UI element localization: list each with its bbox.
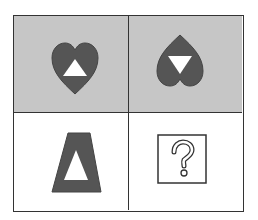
cell-top-right	[129, 16, 242, 113]
inverted-heart-with-triangle-icon	[129, 16, 242, 113]
cell-bottom-left	[14, 113, 129, 210]
heart-with-triangle-icon	[14, 16, 129, 113]
cell-bottom-right	[129, 113, 242, 210]
question-mark-icon	[129, 113, 242, 210]
puzzle-grid	[13, 15, 244, 212]
trapezoid-with-triangle-icon	[14, 113, 129, 210]
cell-top-left	[14, 16, 129, 113]
